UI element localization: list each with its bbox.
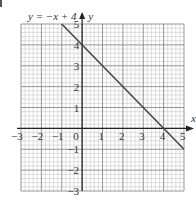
x-tick-label: 0 [73,130,79,142]
equation-label: y = −x + 4 [27,10,77,22]
x-tick-label: 4 [160,130,166,142]
y-tick-label: −3 [67,185,79,197]
x-tick-label: 2 [119,130,125,142]
x-tick-label: 1 [99,130,105,142]
y-axis-label: y [87,10,93,22]
y-axis-arrow-icon [79,12,85,19]
y-tick-label: 1 [74,102,80,114]
coordinate-grid-chart: xy−3−2−1012345−3−2−112345y = −x + 4 [0,0,196,200]
x-tick-label: 3 [139,130,145,142]
y-tick-label: −1 [67,143,79,155]
x-tick-label: 5 [180,130,186,142]
y-tick-label: 2 [74,81,80,93]
x-axis-arrow-icon [186,125,194,131]
y-tick-label: 3 [74,60,80,72]
x-tick-label: −3 [11,130,23,142]
x-tick-label: −2 [32,130,44,142]
x-tick-label: −1 [52,130,64,142]
x-axis-label: x [190,112,196,124]
y-tick-label: −2 [67,164,79,176]
